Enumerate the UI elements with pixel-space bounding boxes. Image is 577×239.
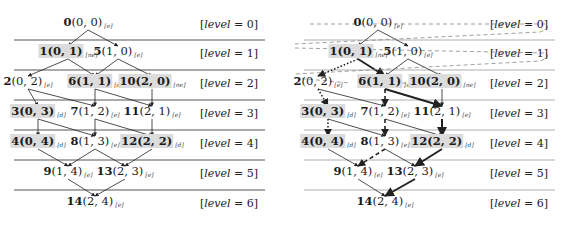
level-label-4: [level = 4]	[200, 137, 258, 150]
node-state-subscript: [d]	[347, 141, 356, 148]
node-state-subscript: [e]	[145, 171, 153, 178]
node-12: 12(2, 2)[d]	[410, 135, 473, 151]
node-coord: (2, 3)	[112, 164, 143, 178]
node-id: 13	[386, 164, 402, 178]
node-state-subscript: [e]	[115, 201, 123, 208]
node-state-subscript: [e]	[401, 111, 409, 118]
node-label: 0(0, 0)	[353, 15, 392, 29]
node-id: 0	[353, 15, 361, 29]
node-id: 12	[121, 134, 137, 148]
node-label: 13(2, 3)	[96, 164, 143, 178]
node-id: 4	[301, 134, 309, 148]
node-state-subscript: [e]	[401, 141, 409, 148]
level-label-0: [level = 0]	[490, 18, 548, 31]
node-id: 8	[360, 134, 368, 148]
node-label: 12(2, 2)	[120, 134, 173, 148]
node-coord: (1, 2)	[78, 104, 109, 118]
node-9: 9(1, 4)[e]	[333, 165, 382, 181]
node-id: 9	[333, 164, 341, 178]
node-state-subscript: [e]	[394, 22, 402, 29]
node-state-subscript: [d]	[57, 111, 66, 118]
node-id: 5	[93, 44, 101, 58]
node-id: 10	[119, 74, 135, 88]
level-label-6: [level = 6]	[200, 197, 258, 210]
node-coord: (2, 0)	[136, 74, 171, 88]
level-label-1: [level = 1]	[490, 47, 548, 60]
node-coord: (2, 2)	[427, 134, 462, 148]
node-1: 1(0, 1)[ne]	[38, 45, 97, 61]
node-10: 10(2, 0)[ne]	[408, 75, 475, 91]
node-id: 14	[66, 194, 82, 208]
node-id: 14	[356, 194, 372, 208]
node-state-subscript: [e]	[462, 111, 470, 118]
node-7: 7(1, 2)[e]	[70, 105, 119, 121]
node-13: 13(2, 3)[e]	[386, 165, 443, 181]
node-coord: (1, 0)	[391, 44, 422, 58]
node-label: 9(1, 4)	[333, 164, 372, 178]
node-id: 1	[39, 44, 47, 58]
node-state-subscript: [e]	[374, 171, 382, 178]
node-state-subscript: [e]	[405, 201, 413, 208]
node-coord: (1, 3)	[368, 134, 399, 148]
node-label: 11(2, 1)	[123, 104, 170, 118]
level-label-3: [level = 3]	[490, 107, 548, 120]
node-label: 3(0, 3)	[10, 104, 55, 118]
node-label: 1(0, 1)	[328, 44, 373, 58]
node-coord: (0, 4)	[309, 134, 344, 148]
node-coord: (0, 1)	[48, 44, 83, 58]
node-label: 12(2, 2)	[410, 134, 463, 148]
node-3: 3(0, 3)[d]	[300, 105, 355, 121]
node-state-subscript: [d]	[465, 141, 474, 148]
node-state-subscript: [d]	[57, 141, 66, 148]
node-id: 8	[70, 134, 78, 148]
node-coord: (0, 4)	[19, 134, 54, 148]
node-label: 2(0, 2)	[3, 74, 42, 88]
node-id: 2	[3, 74, 11, 88]
node-label: 5(1, 0)	[93, 44, 132, 58]
node-label: 8(1, 3)	[360, 134, 399, 148]
node-coord: (1, 2)	[368, 104, 399, 118]
node-id: 10	[409, 74, 425, 88]
node-5: 5(1, 0)[e]	[93, 45, 142, 61]
node-label: 4(0, 4)	[300, 134, 345, 148]
level-label-2: [level = 2]	[490, 77, 548, 90]
node-label: 14(2, 4)	[356, 194, 403, 208]
node-11: 11(2, 1)[e]	[123, 105, 180, 121]
node-6: 6(1, 1)[d]	[67, 75, 122, 91]
node-id: 13	[96, 164, 112, 178]
node-4: 4(0, 4)[d]	[300, 135, 355, 151]
node-state-subscript: [e]	[172, 111, 180, 118]
node-coord: (1, 1)	[76, 74, 111, 88]
node-4: 4(0, 4)[d]	[10, 135, 65, 151]
node-id: 6	[68, 74, 76, 88]
level-label-5: [level = 5]	[490, 167, 548, 180]
node-coord: (1, 1)	[366, 74, 401, 88]
node-id: 9	[43, 164, 51, 178]
node-id: 5	[383, 44, 391, 58]
node-1: 1(0, 1)[ne]	[328, 45, 387, 61]
node-label: 4(0, 4)	[10, 134, 55, 148]
node-id: 2	[293, 74, 301, 88]
node-7: 7(1, 2)[e]	[360, 105, 409, 121]
node-state-subscript: [d]	[175, 141, 184, 148]
level-label-0: [level = 0]	[200, 18, 258, 31]
node-state-subscript: [ne]	[463, 81, 475, 88]
node-id: 12	[411, 134, 427, 148]
node-label: 9(1, 4)	[43, 164, 82, 178]
node-coord: (2, 0)	[426, 74, 461, 88]
node-label: 10(2, 0)	[118, 74, 171, 88]
node-coord: (0, 0)	[71, 15, 102, 29]
node-coord: (1, 3)	[78, 134, 109, 148]
node-label: 13(2, 3)	[386, 164, 433, 178]
node-14: 14(2, 4)[e]	[66, 195, 123, 211]
node-2: 2(0, 2)[e]	[293, 75, 342, 91]
node-id: 3	[301, 104, 309, 118]
node-id: 0	[63, 15, 71, 29]
node-label: 1(0, 1)	[38, 44, 83, 58]
node-8: 8(1, 3)[e]	[70, 135, 119, 151]
node-0: 0(0, 0)[e]	[63, 16, 112, 32]
node-12: 12(2, 2)[d]	[120, 135, 183, 151]
node-id: 7	[360, 104, 368, 118]
node-id: 1	[329, 44, 337, 58]
node-id: 3	[11, 104, 19, 118]
